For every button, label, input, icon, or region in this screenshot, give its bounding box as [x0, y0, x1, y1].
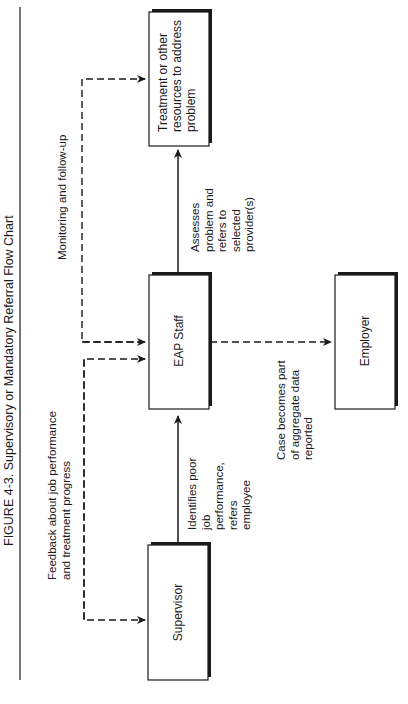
identifies-label-text: Identifies poor job performance, refers …: [186, 458, 254, 530]
edge-feedback: Feedback about job performance and treat…: [84, 359, 145, 620]
figure-title-text: FIGURE 4-3. Supervisory or Mandatory Ref…: [2, 215, 16, 546]
feedback-label-text: Feedback about job performance and treat…: [46, 411, 73, 580]
eap-staff-text: EAP Staff: [172, 274, 186, 408]
supervisor-text: Supervisor: [171, 545, 185, 680]
treatment-text: Treatment or other resources to address …: [156, 20, 198, 132]
edge-monitoring: Monitoring and follow-up: [82, 79, 145, 342]
aggregate-label-text: Case becomes part of aggregate data repo…: [275, 360, 316, 460]
monitoring-label-text: Monitoring and follow-up: [56, 135, 70, 260]
employer-text: Employer: [358, 274, 372, 408]
flow-chart: FIGURE 4-3. Supervisory or Mandatory Ref…: [0, 0, 408, 704]
assesses-label-text: Assesses problem and refers to selected …: [189, 188, 257, 252]
